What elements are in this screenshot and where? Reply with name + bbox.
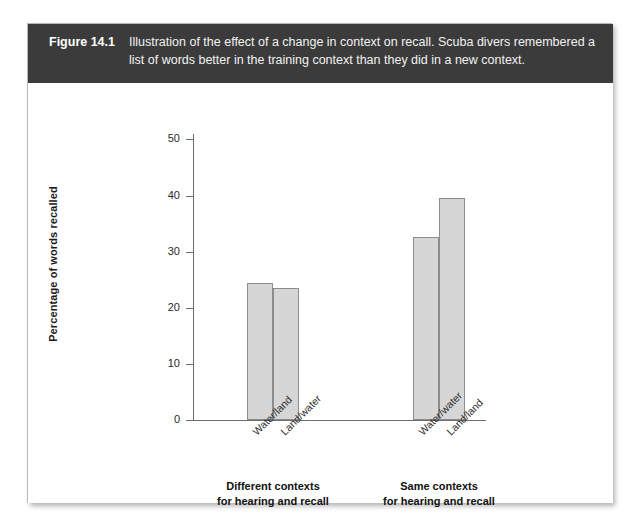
y-tick-label-50: 50	[140, 132, 180, 144]
y-tick-mark-50	[186, 139, 194, 140]
x-axis-line	[193, 420, 486, 421]
y-tick-label-40: 40	[140, 189, 180, 201]
y-tick-label-10: 10	[140, 357, 180, 369]
figure-number: Figure 14.1	[42, 33, 115, 51]
y-tick-label-20: 20	[140, 301, 180, 313]
y-tick-label-0: 0	[140, 413, 180, 425]
group-caption-line2: for hearing and recall	[183, 494, 363, 509]
bar-water-water	[413, 237, 439, 420]
y-tick-mark-30	[186, 252, 194, 253]
y-tick-mark-20	[186, 308, 194, 309]
y-tick-label-30: 30	[140, 245, 180, 257]
bar-chart: Percentage of words recalled 50 40 30 20…	[28, 83, 613, 503]
group-caption-line1: Same contexts	[349, 479, 529, 494]
y-axis-title: Percentage of words recalled	[47, 164, 59, 364]
y-tick-mark-10	[186, 364, 194, 365]
y-axis-line	[193, 134, 194, 421]
y-tick-mark-40	[186, 196, 194, 197]
bar-land-land	[439, 198, 465, 420]
figure-caption-header: Figure 14.1 Illustration of the effect o…	[28, 24, 613, 83]
y-tick-mark-0	[186, 420, 194, 421]
group-caption-line1: Different contexts	[183, 479, 363, 494]
group-caption-same-contexts: Same contexts for hearing and recall	[349, 479, 529, 509]
group-caption-line2: for hearing and recall	[349, 494, 529, 509]
group-caption-different-contexts: Different contexts for hearing and recal…	[183, 479, 363, 509]
figure-caption-text: Illustration of the effect of a change i…	[129, 33, 599, 69]
figure-box: Figure 14.1 Illustration of the effect o…	[27, 23, 612, 503]
bar-water-land	[247, 283, 273, 420]
